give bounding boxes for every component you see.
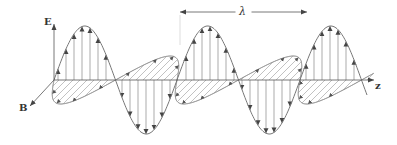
b-axis-label: B (19, 103, 27, 113)
b-field-vector (190, 80, 213, 103)
b-field-vector (248, 69, 259, 80)
b-field-vector (73, 80, 94, 101)
b-field-vector (317, 80, 339, 102)
b-field-vector (276, 57, 299, 80)
b-field-vector (283, 62, 301, 80)
b-field-vector (175, 80, 192, 97)
b-field-vector (269, 56, 293, 80)
b-field-vector (177, 80, 199, 102)
b-field-vector (255, 62, 273, 80)
b-field-vector (150, 56, 174, 80)
e-axis-label: E (44, 17, 52, 27)
em-wave-diagram (0, 0, 397, 145)
b-field-vector (52, 80, 66, 94)
b-field-vector (85, 80, 101, 96)
b-field-vector (329, 80, 346, 97)
b-field-vector (214, 80, 227, 93)
b-axis (30, 80, 54, 106)
b-field-vector (164, 65, 179, 80)
wavelength-label: λ (237, 6, 248, 17)
b-field-vector (302, 80, 325, 103)
b-field-vector (262, 58, 284, 80)
z-axis-label: z (375, 81, 381, 91)
b-field-vector (182, 80, 206, 104)
b-field-vector (129, 65, 144, 80)
